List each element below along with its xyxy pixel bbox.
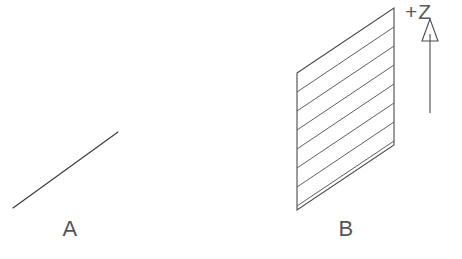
panel-a-label: A — [62, 216, 77, 241]
panel-b-label: B — [338, 216, 353, 241]
technical-diagram-svg: A B +Z — [0, 0, 462, 259]
diagram-canvas: A B +Z — [0, 0, 462, 259]
z-axis-label: +Z — [405, 0, 432, 23]
